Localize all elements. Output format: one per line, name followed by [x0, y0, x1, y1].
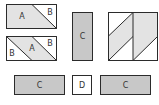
label-c: C — [80, 32, 86, 41]
label-a: A — [19, 12, 25, 21]
unit-b-a-b: B A B — [7, 37, 57, 61]
label-c-right: C — [123, 81, 129, 90]
label-d: D — [79, 81, 85, 90]
label-b-right: B — [47, 39, 53, 48]
piecing-diagram: A B B A B C C D C — [0, 0, 159, 105]
label-b: B — [47, 8, 53, 17]
unit-c-column: C — [73, 13, 93, 61]
bottom-row: C D C — [15, 76, 151, 95]
completed-block — [109, 13, 158, 61]
unit-a-b: A B — [7, 5, 57, 29]
label-c-left: C — [37, 81, 43, 90]
label-b-left: B — [9, 49, 15, 58]
label-a: A — [29, 44, 35, 53]
